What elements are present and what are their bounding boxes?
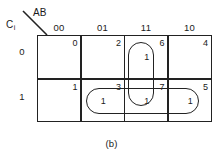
- figure-caption: (b): [0, 138, 223, 150]
- kmap-cell-m5[interactable]: 5 1: [169, 80, 213, 124]
- minterm-index-3: 3: [116, 82, 121, 93]
- cell-value-m3: 1: [82, 96, 126, 107]
- minterm-index-7: 7: [159, 82, 164, 93]
- column-header-01: 01: [81, 21, 125, 34]
- row-variable-letter: C: [6, 19, 13, 30]
- kmap-cell-m6[interactable]: 6 1: [125, 36, 169, 80]
- row-header-1: 1: [14, 91, 30, 103]
- cell-value-m7: 1: [125, 96, 169, 107]
- minterm-index-2: 2: [116, 38, 121, 49]
- minterm-index-0: 0: [72, 38, 77, 49]
- minterm-index-4: 4: [203, 38, 208, 49]
- kmap-cell-m7[interactable]: 7 1: [125, 80, 169, 124]
- column-header-11: 11: [124, 21, 168, 34]
- column-header-10: 10: [168, 21, 212, 34]
- minterm-index-5: 5: [203, 82, 208, 93]
- kmap-cell-m4[interactable]: 4: [169, 36, 213, 80]
- kmap-cell-m2[interactable]: 2: [82, 36, 126, 80]
- column-header-row: 00 01 11 10: [37, 21, 212, 34]
- karnaugh-map-figure: AB Ci 00 01 11 10 0 1 0 2 6 1 4: [0, 0, 223, 162]
- column-variable-label: AB: [33, 7, 47, 18]
- kmap-grid: 0 2 6 1 4 1 3 1 7 1 5 1: [37, 35, 212, 122]
- minterm-index-1: 1: [72, 82, 77, 93]
- row-header-0: 0: [14, 46, 30, 58]
- cell-value-m5: 1: [169, 96, 213, 107]
- kmap-cell-m1[interactable]: 1: [38, 80, 82, 124]
- column-header-00: 00: [37, 21, 81, 34]
- row-variable-subscript: i: [14, 24, 16, 31]
- kmap-cell-m0[interactable]: 0: [38, 36, 82, 80]
- cell-value-m6: 1: [125, 52, 169, 63]
- kmap-cell-m3[interactable]: 3 1: [82, 80, 126, 124]
- minterm-index-6: 6: [159, 38, 164, 49]
- row-variable-label: Ci: [6, 19, 15, 33]
